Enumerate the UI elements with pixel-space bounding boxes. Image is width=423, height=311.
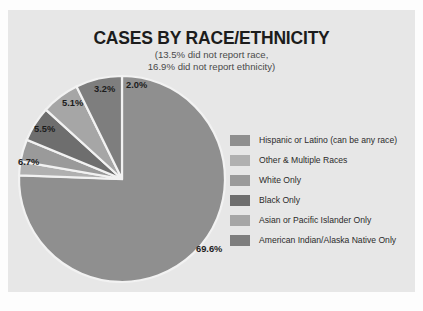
legend-item-label: American Indian/Alaska Native Only [259, 235, 396, 245]
legend-color-swatch [230, 135, 250, 146]
legend-row[interactable]: Other & Multiple Races [230, 150, 415, 170]
legend-row[interactable]: White Only [230, 170, 415, 190]
slice-label-white: 3.2% [94, 84, 115, 94]
legend-item-label: White Only [259, 175, 301, 185]
legend-color-swatch [230, 235, 250, 246]
slice-label-asian: 5.5% [34, 124, 55, 134]
legend-item-label: Black Only [259, 195, 300, 205]
chart-title: CASES BY RACE/ETHNICITY [8, 28, 415, 49]
chart-subtitle-line-2: 16.9% did not report ethnicity) [8, 61, 415, 73]
pie-chart: 69.6% 2.0% 3.2% 5.1% 5.5% 6.7% [16, 72, 228, 287]
legend-row[interactable]: American Indian/Alaska Native Only [230, 230, 415, 250]
slice-label-black: 5.1% [62, 98, 83, 108]
chart-subtitle-line-1: (13.5% did not report race, [8, 49, 415, 61]
legend-color-swatch [230, 215, 250, 226]
legend-item-label: Hispanic or Latino (can be any race) [259, 135, 397, 145]
legend-item-label: Other & Multiple Races [259, 155, 347, 165]
legend-row[interactable]: Black Only [230, 190, 415, 210]
legend-row[interactable]: Hispanic or Latino (can be any race) [230, 130, 415, 150]
legend-color-swatch [230, 155, 250, 166]
chart-panel: CASES BY RACE/ETHNICITY (13.5% did not r… [8, 10, 415, 292]
legend-row[interactable]: Asian or Pacific Islander Only [230, 210, 415, 230]
pie-chart-svg [16, 72, 228, 287]
pie-slice-group [19, 76, 225, 282]
chart-legend: Hispanic or Latino (can be any race)Othe… [230, 130, 415, 250]
slice-label-amerindian: 6.7% [18, 157, 39, 167]
slice-label-hispanic: 69.6% [196, 244, 222, 254]
legend-item-label: Asian or Pacific Islander Only [259, 215, 371, 225]
legend-color-swatch [230, 175, 250, 186]
slice-label-other: 2.0% [126, 80, 147, 90]
chart-subtitle: (13.5% did not report race, 16.9% did no… [8, 49, 415, 72]
legend-color-swatch [230, 195, 250, 206]
